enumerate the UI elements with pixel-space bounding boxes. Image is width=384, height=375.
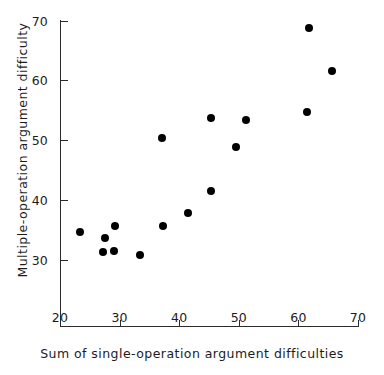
plot-area: [60, 20, 358, 327]
scatter-plot-figure: 203040506070 3040506070 Sum of single-op…: [0, 0, 384, 375]
x-axis-title: Sum of single-operation argument difficu…: [0, 346, 384, 361]
data-point: [136, 251, 144, 259]
x-tick-label-70: 70: [350, 310, 366, 325]
y-axis-tick-labels: 3040506070: [0, 20, 60, 327]
y-tick-70: [61, 21, 68, 22]
data-point: [184, 209, 192, 217]
y-tick-label-70: 70: [32, 13, 48, 28]
data-point: [303, 108, 311, 116]
x-axis-line: [60, 326, 358, 327]
x-tick-label-30: 30: [111, 310, 127, 325]
data-point: [207, 187, 215, 195]
data-point: [305, 24, 313, 32]
data-point: [101, 234, 109, 242]
y-tick-30: [61, 260, 68, 261]
data-point: [76, 228, 84, 236]
data-point: [242, 116, 250, 124]
x-tick-label-50: 50: [231, 310, 247, 325]
data-point: [99, 248, 107, 256]
data-point: [110, 247, 118, 255]
data-point: [232, 143, 240, 151]
data-point: [328, 67, 336, 75]
y-tick-label-40: 40: [32, 192, 48, 207]
data-point: [158, 134, 166, 142]
x-tick-label-60: 60: [290, 310, 306, 325]
y-tick-50: [61, 140, 68, 141]
y-tick-40: [61, 200, 68, 201]
data-point: [207, 114, 215, 122]
y-tick-label-50: 50: [32, 133, 48, 148]
x-tick-label-40: 40: [171, 310, 187, 325]
y-axis-title: Multiple-operation argument difficulty: [15, 38, 30, 278]
data-point: [159, 222, 167, 230]
y-axis-line: [60, 20, 61, 327]
y-tick-label-30: 30: [32, 252, 48, 267]
y-tick-60: [61, 80, 68, 81]
y-tick-label-60: 60: [32, 73, 48, 88]
data-point: [111, 222, 119, 230]
